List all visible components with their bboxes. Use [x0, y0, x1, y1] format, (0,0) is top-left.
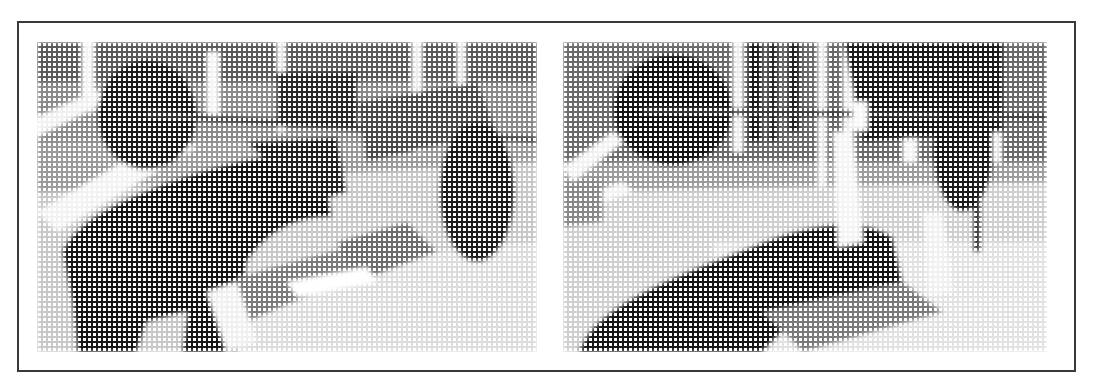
- photo-right-bench-lying: [563, 42, 1047, 352]
- photo-left-bench-press: [37, 42, 537, 352]
